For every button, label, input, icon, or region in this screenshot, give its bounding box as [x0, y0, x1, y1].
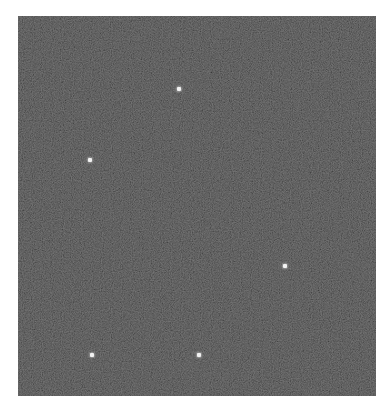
bright-point-5 — [197, 353, 201, 357]
dark-noise-field — [18, 16, 376, 396]
bright-point-4 — [90, 353, 94, 357]
bright-point-3 — [283, 264, 287, 268]
bright-point-2 — [88, 158, 92, 162]
noise-texture — [18, 16, 376, 396]
bright-point-1 — [177, 87, 181, 91]
